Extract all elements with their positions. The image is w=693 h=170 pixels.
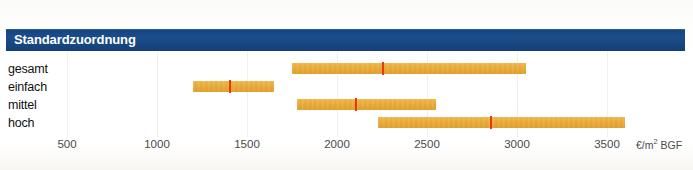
- median-marker-einfach: [229, 80, 231, 93]
- category-label-einfach: einfach: [8, 80, 47, 94]
- axis-unit-label: €/m2 BGF: [636, 137, 682, 151]
- gridline: [157, 52, 158, 137]
- median-marker-gesamt: [382, 62, 384, 75]
- range-bar-gesamt: [292, 63, 526, 74]
- chart-figure: Standardzuordnung gesamteinfachmittelhoc…: [0, 0, 693, 170]
- category-label-mittel: mittel: [8, 98, 37, 112]
- gridline: [67, 52, 68, 137]
- range-bar-einfach: [193, 81, 274, 92]
- median-marker-hoch: [490, 116, 492, 129]
- tick-label-3500: 3500: [594, 138, 620, 150]
- category-label-hoch: hoch: [8, 116, 34, 130]
- page-title: Standardzuordnung: [14, 32, 136, 47]
- tick-label-2000: 2000: [324, 138, 350, 150]
- tick-label-2500: 2500: [414, 138, 440, 150]
- tick-label-3000: 3000: [504, 138, 530, 150]
- tick-label-1000: 1000: [144, 138, 170, 150]
- range-bar-mittel: [297, 99, 436, 110]
- tick-label-500: 500: [57, 138, 76, 150]
- category-label-gesamt: gesamt: [8, 62, 48, 76]
- chart-header-bar: Standardzuordnung: [6, 29, 685, 51]
- range-bar-hoch: [378, 117, 625, 128]
- median-marker-mittel: [355, 98, 357, 111]
- plot-area: gesamteinfachmittelhoch 5001000150020002…: [0, 50, 693, 170]
- tick-label-1500: 1500: [234, 138, 260, 150]
- gridline: [247, 52, 248, 137]
